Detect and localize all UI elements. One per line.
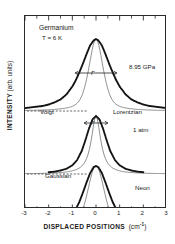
voigt-label: Voigt	[40, 108, 54, 115]
x-axis-units: cm	[131, 223, 140, 230]
x-tick-label: 0	[93, 209, 96, 216]
y-axis-label: INTENSITY (arb. units)	[6, 36, 13, 156]
x-tick-label: 1	[117, 209, 120, 216]
plot-area: Germanium T = 6 K 8.95 GPa Voigt Lorentz…	[24, 15, 166, 208]
gaussian-label: Gaussian	[45, 172, 71, 179]
x-tick-labels: -3-2-10123	[24, 209, 166, 219]
lorentzian-label: Lorentzian	[113, 108, 142, 115]
x-axis-title: DISPLACED POSITIONS	[43, 223, 125, 230]
y-axis-units: (arb. units)	[6, 61, 13, 92]
middle-pressure-label: 1 atm	[133, 126, 148, 133]
sample-label: Germanium	[39, 24, 73, 31]
x-axis-label: DISPLACED POSITIONS (cm-1)	[24, 222, 166, 230]
gamma-symbol-top: Γ	[91, 69, 95, 76]
x-tick-label: 2	[141, 209, 144, 216]
x-tick-label: -1	[69, 209, 75, 216]
temperature-label: T = 6 K	[42, 34, 62, 41]
y-axis-title: INTENSITY	[6, 93, 13, 130]
x-tick-label: -3	[21, 209, 27, 216]
top-pressure-label: 8.95 GPa	[129, 63, 155, 70]
x-tick-label: -2	[45, 209, 51, 216]
neon-label: Neon	[135, 184, 150, 191]
x-tick-label: 3	[164, 209, 167, 216]
gamma-symbol-middle: Γ	[91, 119, 95, 126]
figure-panel: INTENSITY (arb. units) Germanium T = 6 K…	[0, 0, 175, 244]
